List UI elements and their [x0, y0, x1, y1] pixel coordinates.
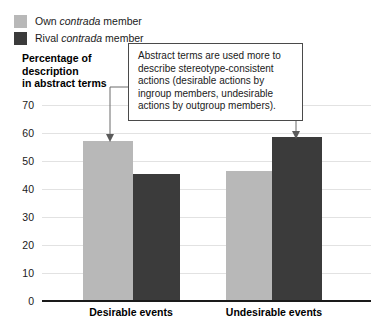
- bar-undesirable-rival: [272, 137, 322, 301]
- x-tick-label-desirable: Desirable events: [66, 306, 196, 318]
- y-tick-label-70: 70: [0, 100, 34, 111]
- y-tick-label-60: 60: [0, 128, 34, 139]
- y-tick-label-10: 10: [0, 268, 34, 279]
- gridline-60: [42, 133, 371, 134]
- annotation-text: Abstract terms are used more to describe…: [138, 50, 294, 113]
- x-tick-label-undesirable: Undesirable events: [209, 306, 339, 318]
- bar-chart-figure: Own contrada member Rival contrada membe…: [0, 0, 387, 328]
- x-axis-baseline: [42, 300, 371, 302]
- annotation-callout: Abstract terms are used more to describe…: [128, 43, 303, 121]
- y-tick-label-50: 50: [0, 156, 34, 167]
- bar-desirable-rival: [133, 174, 180, 301]
- bar-undesirable-own: [226, 171, 272, 301]
- y-tick-label-20: 20: [0, 240, 34, 251]
- y-tick-label-30: 30: [0, 212, 34, 223]
- bar-desirable-own: [83, 141, 133, 301]
- y-tick-label-40: 40: [0, 184, 34, 195]
- y-tick-label-0: 0: [0, 296, 34, 307]
